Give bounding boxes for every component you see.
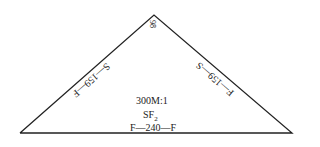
apex-angle-label: 98	[148, 20, 156, 28]
formula-main: SF	[143, 109, 154, 120]
base-edge-label: F—240—F	[130, 123, 176, 133]
ratio-label: 300M:1	[136, 96, 168, 106]
